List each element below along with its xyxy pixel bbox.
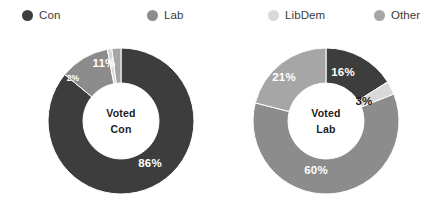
legend-swatch-icon [268,10,279,21]
legend-swatch-icon [374,10,385,21]
chart-legend: ConLabLibDemOther [0,10,426,34]
donut-slice-lab[interactable] [253,94,399,194]
legend-item-lab[interactable]: Lab [147,10,184,22]
legend-label: Lab [164,10,184,22]
legend-swatch-icon [147,10,158,21]
legend-item-con[interactable]: Con [22,10,60,22]
legend-label: Other [391,10,420,22]
donut-slice-other[interactable] [255,48,326,112]
legend-label: LibDem [285,10,325,22]
legend-item-libdem[interactable]: LibDem [268,10,325,22]
legend-label: Con [39,10,60,22]
legend-item-other[interactable]: Other [374,10,420,22]
donut-chart-voted-lab: VotedLab [253,48,399,194]
chart-figure: ConLabLibDemOther VotedCon VotedLab 86%1… [0,0,426,199]
donut-chart-voted-con: VotedCon [48,48,194,194]
donut-slices [48,48,194,194]
legend-swatch-icon [22,10,33,21]
donut-slices [253,48,399,194]
